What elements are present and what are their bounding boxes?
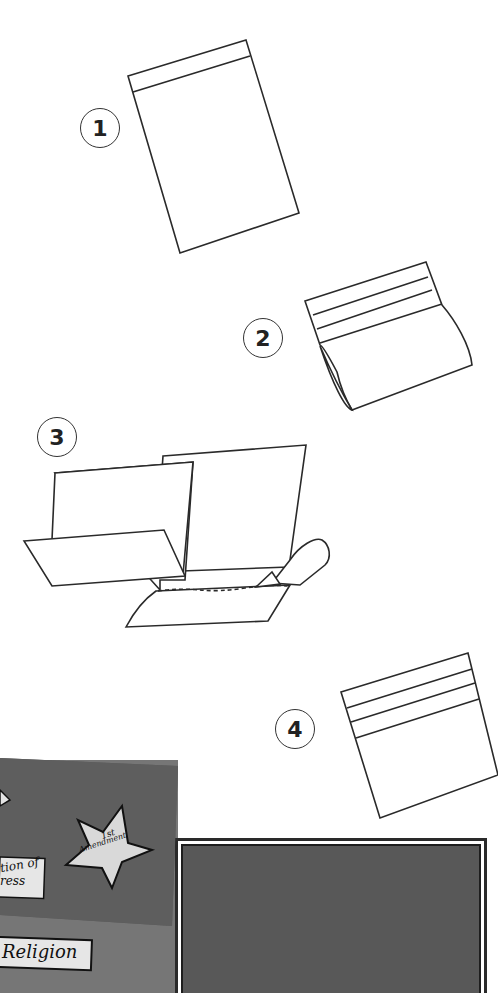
instruction-diagram (0, 0, 498, 993)
step-number-3: 3 (37, 417, 77, 457)
step-number-4: 4 (275, 709, 315, 749)
card-label-press: ress (0, 874, 25, 888)
step-1-sheet (128, 40, 299, 253)
step-2-sheet (305, 262, 472, 410)
step-4-pocket (341, 653, 498, 818)
step-number-2: 2 (243, 318, 283, 358)
step-3-gluing (24, 445, 329, 627)
card-label-religion: Religion (2, 941, 77, 962)
step-number-1: 1 (80, 108, 120, 148)
